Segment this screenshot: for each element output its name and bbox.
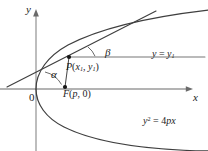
point-p-marker [67,55,71,59]
angle-beta-label: β [105,47,110,58]
y-axis-arrowhead [33,9,39,17]
figure-canvas [0,0,208,151]
point-p-comma: , [83,61,86,72]
angle-alpha-label: α [51,69,57,80]
x-axis-arrowhead [186,86,193,92]
parabola-upper-branch [36,10,208,89]
x-axis-label: x [193,92,198,103]
focus-f-label: F(p, 0) [63,89,91,99]
horizontal-ray-label: y = y1 [152,49,175,59]
ray-label-lhs: y [152,48,156,59]
angle-beta-arc [88,47,95,56]
parabola-eq-exponent: 2 [147,115,150,122]
point-p-paren-close: ) [96,61,99,72]
ray-label-rhs-subscript: 1 [172,52,175,59]
y-axis-label: y [26,4,31,15]
tangent-line [7,11,156,87]
point-p-label: P(x1, y1) [66,62,99,72]
parabola-eq-x: x [171,115,175,126]
focus-f-comma: , [77,88,80,99]
parabola-lower-branch [36,89,208,151]
parabola-reflection-figure: y x 0 α β P(x1, y1) F(p, 0) y = y1 y2 = … [0,0,208,151]
ray-label-equals: = [159,48,165,59]
origin-label: 0 [29,92,35,103]
parabola-equation-label: y2 = 4px [143,116,176,126]
parabola-eq-equals: = [153,115,159,126]
focus-f-paren-close: ) [87,88,90,99]
